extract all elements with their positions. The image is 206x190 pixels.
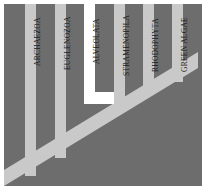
branch-rhodophyta	[143, 4, 154, 94]
cladogram-canvas	[0, 0, 206, 190]
branch-archaezoa	[25, 4, 36, 176]
branch-stramenopila	[114, 4, 125, 105]
branch-euglenozoa	[55, 4, 66, 158]
branch-green-algae	[172, 4, 183, 82]
cladogram-figure: Archaezoa Euglenozoa Alveolata Stramenop…	[0, 0, 206, 190]
